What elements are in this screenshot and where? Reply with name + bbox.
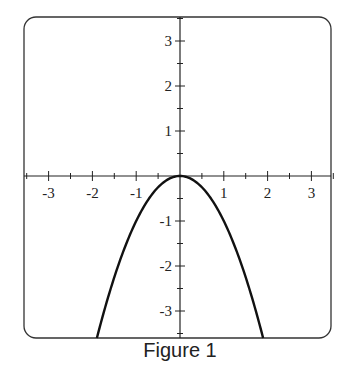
x-tick-label: 3 — [308, 185, 316, 201]
x-tick-label: -3 — [42, 185, 55, 201]
y-tick-label: 2 — [165, 78, 173, 94]
x-tick-label: -1 — [130, 185, 143, 201]
graph-plot: -3-2-1123321-1-2-3 — [0, 0, 346, 340]
y-tick-label: -1 — [160, 213, 173, 229]
x-tick-label: 1 — [220, 185, 228, 201]
y-tick-label: 1 — [165, 123, 173, 139]
x-tick-label: 2 — [264, 185, 272, 201]
y-tick-label: -3 — [160, 303, 173, 319]
y-tick-label: 3 — [165, 33, 173, 49]
x-tick-label: -2 — [86, 185, 99, 201]
y-tick-label: -2 — [160, 258, 173, 274]
figure-caption: Figure 1 — [0, 339, 346, 362]
